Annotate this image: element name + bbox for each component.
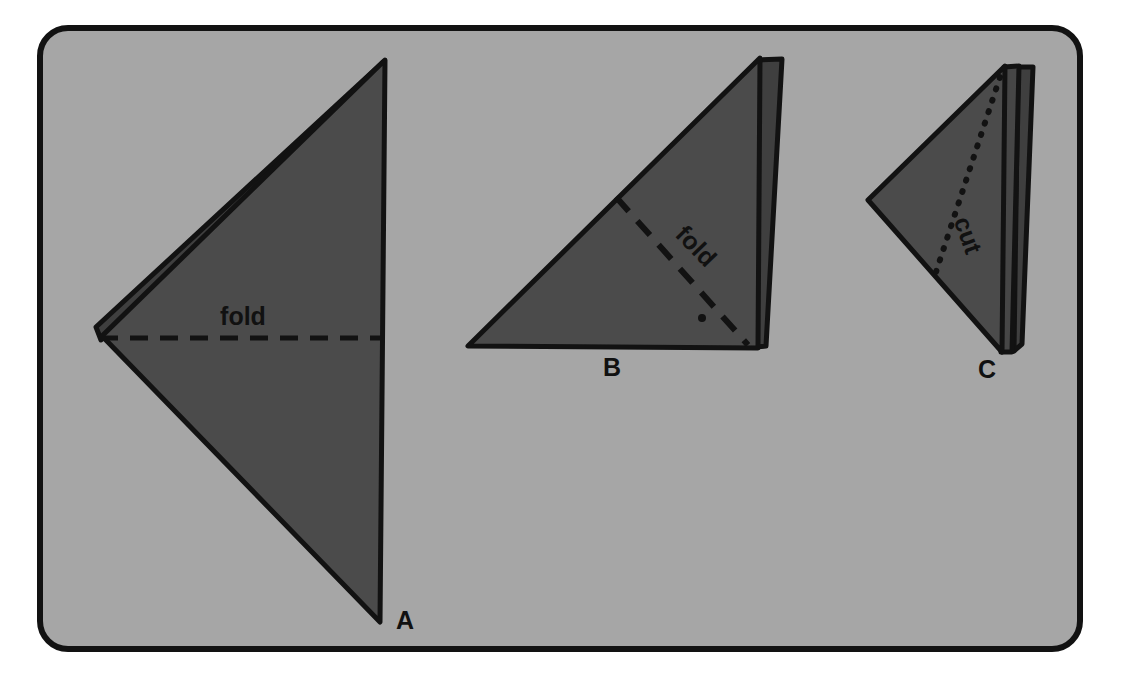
panel-b-reference-dot [698, 314, 706, 322]
panel-a-fold-label: fold [220, 302, 266, 330]
panel-a-label: A [396, 606, 414, 634]
panel-b-label: B [603, 353, 621, 381]
panel-c-label: C [978, 355, 996, 383]
figure-page: fold A fold B cut C [0, 0, 1121, 700]
paper-folding-figure: fold A fold B cut C [0, 0, 1121, 700]
